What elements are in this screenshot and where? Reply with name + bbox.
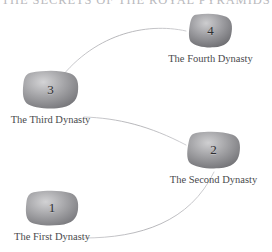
node-label: The Fourth Dynasty [168, 53, 253, 64]
node-third-dynasty[interactable]: 3 The Third Dynasty [22, 70, 79, 109]
node-second-dynasty[interactable]: 2 The Second Dynasty [186, 131, 241, 169]
stone-blob-icon: 1 [25, 190, 79, 226]
stone-blob-icon: 3 [22, 70, 79, 109]
connector-2-to-3 [84, 117, 186, 145]
diagram-canvas: THE SECRETS OF THE ROYAL PYRAMIDS [0, 0, 272, 252]
node-first-dynasty[interactable]: 1 The First Dynasty [25, 190, 79, 226]
stone-blob-icon: 4 [188, 13, 233, 48]
node-label: The Third Dynasty [11, 114, 91, 125]
node-fourth-dynasty[interactable]: 4 The Fourth Dynasty [188, 13, 233, 48]
node-label: The First Dynasty [14, 231, 90, 242]
stone-blob-icon: 2 [186, 131, 241, 169]
node-label: The Second Dynasty [170, 174, 257, 185]
